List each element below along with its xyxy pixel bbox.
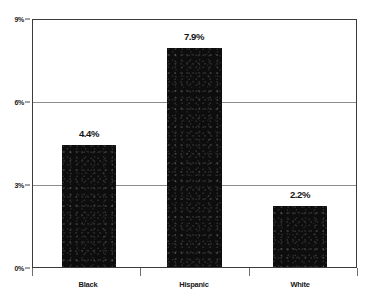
x-category-label-white: White: [290, 280, 309, 289]
bar-value-black: 4.4%: [79, 128, 99, 139]
x-tick-mark-1: [140, 268, 141, 276]
bar-black: [62, 145, 116, 267]
x-tick-mark-start: [32, 268, 33, 276]
bar-chart: 9% 6% 3% 0% 4.4% 7.9% 2.2% Black Hispani…: [0, 0, 367, 300]
y-axis: 9% 6% 3% 0%: [0, 0, 32, 300]
y-tick-label-3: 3%: [14, 182, 24, 189]
x-category-label-black: Black: [79, 280, 98, 289]
y-tick-label-6: 6%: [14, 99, 24, 106]
x-tick-mark-end: [357, 268, 358, 276]
x-axis: Black Hispanic White: [0, 268, 367, 300]
y-tick-label-9: 9%: [14, 16, 24, 23]
x-category-label-hispanic: Hispanic: [179, 280, 208, 289]
plot-area: 4.4% 7.9% 2.2%: [32, 19, 357, 268]
y-tick-mark-6: [25, 102, 30, 103]
y-tick-mark-3: [25, 185, 30, 186]
bar-hispanic: [167, 48, 222, 267]
bar-value-hispanic: 7.9%: [184, 31, 204, 42]
y-tick-mark-9: [25, 19, 30, 20]
x-tick-mark-2: [249, 268, 250, 276]
bar-value-white: 2.2%: [290, 189, 310, 200]
bar-white: [273, 206, 327, 267]
